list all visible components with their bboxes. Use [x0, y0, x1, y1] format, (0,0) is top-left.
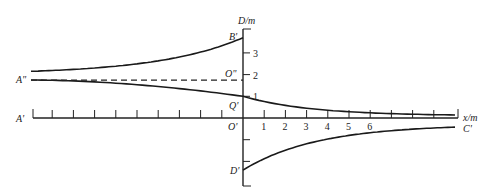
- x-tick-label: 5: [346, 121, 351, 132]
- x-axis-label: x/m: [462, 112, 477, 123]
- x-tick-label: 2: [282, 121, 287, 132]
- upper-curve: [31, 38, 243, 72]
- diagram: 123456 123 D/m x/m A" A' B' O" Q' O' C' …: [0, 0, 491, 192]
- y-axis-label: D/m: [237, 15, 255, 26]
- x-tick-label: 3: [304, 121, 309, 132]
- y-tick-label: 2: [253, 70, 258, 81]
- x-tick-label: 6: [367, 121, 372, 132]
- point-label-O-double: O": [225, 68, 237, 79]
- x-tick-label: 4: [325, 121, 330, 132]
- y-ticks: 123: [243, 48, 258, 161]
- point-label-D-prime: D': [229, 165, 240, 176]
- point-label-B-prime: B': [229, 31, 238, 42]
- point-label-A-double: A": [15, 74, 27, 85]
- point-label-O-prime: O': [228, 121, 238, 132]
- point-label-C-prime: C': [463, 123, 473, 134]
- x-tick-label: 1: [261, 121, 266, 132]
- point-label-Q-prime: Q': [229, 100, 239, 111]
- lower-curve: [243, 127, 455, 170]
- y-tick-label: 3: [253, 48, 258, 59]
- point-label-A-prime: A': [15, 113, 25, 124]
